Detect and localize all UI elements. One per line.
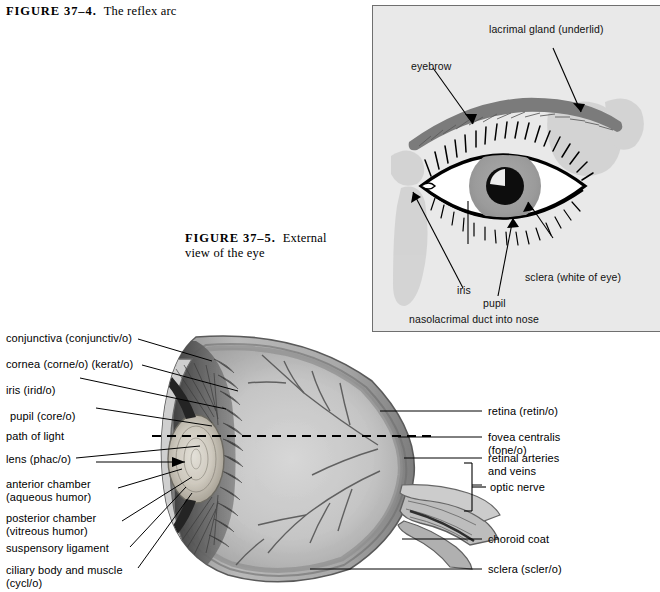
figure-caption-37-4-label: FIGURE 37–4. xyxy=(6,4,97,18)
panel-label-eyebrow: eyebrow xyxy=(411,60,451,72)
label-posterior-chamber-line2: (vitreous humor) xyxy=(6,525,88,537)
label-anterior-chamber-line2: (aqueous humor) xyxy=(6,491,91,503)
label-optic-nerve: optic nerve xyxy=(490,481,545,494)
label-pupil: pupil (core/o) xyxy=(10,410,76,423)
label-sclera: sclera (scler/o) xyxy=(488,563,562,576)
label-retina: retina (retin/o) xyxy=(488,405,558,418)
panel-label-sclera: sclera (white of eye) xyxy=(525,271,621,283)
label-anterior-chamber-line1: anterior chamber xyxy=(6,478,91,490)
eye-cross-section-figure: conjunctiva (conjunctiv/o) cornea (corne… xyxy=(0,325,660,592)
label-iris: iris (irid/o) xyxy=(6,384,56,397)
label-anterior-chamber: anterior chamber (aqueous humor) xyxy=(6,478,126,503)
label-fovea-centralis-line1: fovea centralis xyxy=(488,431,560,443)
label-retinal-arteries-and-veins: retinal arteries and veins xyxy=(488,452,598,477)
label-ciliary-body-line2: (cycl/o) xyxy=(6,577,42,589)
label-posterior-chamber-line1: posterior chamber xyxy=(6,512,96,524)
label-retinal-arteries-line2: and veins xyxy=(488,465,536,477)
external-eye-illustration xyxy=(373,6,660,332)
label-lens: lens (phac/o) xyxy=(6,453,71,466)
label-ciliary-body-line1: ciliary body and muscle xyxy=(6,564,123,576)
figure-caption-37-4-text: The reflex arc xyxy=(104,4,177,18)
label-posterior-chamber: posterior chamber (vitreous humor) xyxy=(6,512,126,537)
figure-caption-37-4: FIGURE 37–4.The reflex arc xyxy=(6,4,177,19)
panel-label-iris: iris xyxy=(457,284,471,296)
optic-nerve-shape xyxy=(398,485,500,569)
panel-label-nasolacrimal-duct: nasolacrimal duct into nose xyxy=(409,313,539,325)
external-eye-figure-panel: lacrimal gland (underlid) eyebrow pupil … xyxy=(372,5,660,332)
label-choroid-coat: choroid coat xyxy=(488,533,549,546)
label-retinal-arteries-line1: retinal arteries xyxy=(488,452,559,464)
figure-caption-37-5: FIGURE 37–5.External view of the eye xyxy=(185,231,350,261)
label-conjunctiva: conjunctiva (conjunctiv/o) xyxy=(6,332,132,345)
label-ciliary-body: ciliary body and muscle (cycl/o) xyxy=(6,564,141,589)
figure-caption-37-5-label: FIGURE 37–5. xyxy=(185,231,276,245)
label-suspensory-ligament: suspensory ligament xyxy=(6,542,109,555)
panel-label-pupil: pupil xyxy=(483,297,506,309)
label-cornea: cornea (corne/o) (kerat/o) xyxy=(6,358,133,371)
label-path-of-light: path of light xyxy=(6,430,64,443)
panel-label-lacrimal-gland: lacrimal gland (underlid) xyxy=(489,23,604,35)
